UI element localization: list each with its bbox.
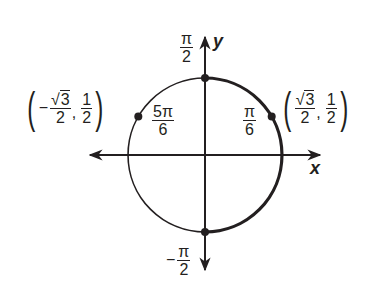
minus-sign: − — [39, 99, 48, 117]
angle-label-pi-over-6: π6 — [243, 103, 256, 138]
numerator: π — [180, 30, 193, 48]
x-axis-label: x — [310, 158, 320, 179]
y-denominator: 2 — [327, 109, 336, 126]
open-paren: ( — [27, 86, 35, 130]
marked-point--90deg — [201, 228, 209, 236]
radicand: 3 — [60, 90, 70, 108]
point-label-left: ( − √32 , 12 ) — [24, 86, 107, 130]
denominator: 6 — [245, 121, 254, 138]
denominator: 6 — [159, 121, 168, 138]
marked-point-150deg — [134, 113, 142, 121]
angle-label-pi-over-2: π2 — [180, 30, 193, 65]
y-denominator: 2 — [82, 109, 91, 126]
x-numerator: √3 — [295, 91, 316, 109]
sqrt-symbol: √ — [51, 91, 60, 108]
x-denominator: 2 — [56, 109, 65, 126]
numerator: 5π — [152, 103, 174, 121]
numerator: π — [243, 103, 256, 121]
open-paren: ( — [283, 86, 291, 130]
angle-label-five-pi-over-6: 5π6 — [152, 103, 174, 138]
y-numerator: 1 — [81, 91, 92, 109]
marked-point-30deg — [268, 113, 276, 121]
close-paren: ) — [340, 86, 348, 130]
radicand: 3 — [304, 90, 314, 108]
y-axis-label: y — [213, 31, 223, 52]
minus-sign: − — [166, 251, 175, 268]
close-paren: ) — [95, 86, 103, 130]
comma: , — [72, 104, 76, 122]
denominator: 2 — [179, 261, 188, 278]
angle-label-neg-pi-over-2: −π2 — [166, 243, 190, 278]
comma: , — [316, 104, 320, 122]
x-denominator: 2 — [301, 109, 310, 126]
x-numerator: √3 — [50, 91, 71, 109]
marked-point-90deg — [201, 74, 209, 82]
denominator: 2 — [182, 48, 191, 65]
y-numerator: 1 — [326, 91, 337, 109]
point-label-right: ( √32 , 12 ) — [280, 86, 351, 130]
numerator: π — [177, 243, 190, 261]
